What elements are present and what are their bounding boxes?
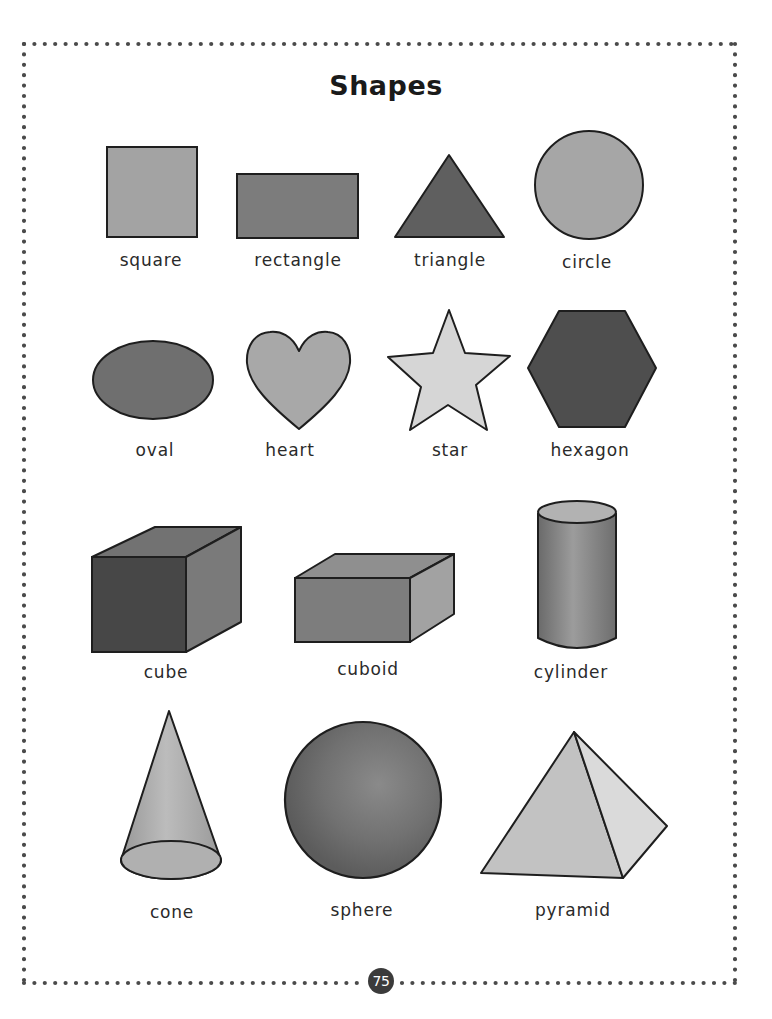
hexagon-shape [522,305,662,433]
star-shape [382,305,517,435]
page-title: Shapes [0,70,772,101]
hexagon-label: hexagon [510,440,670,460]
pyramid-label: pyramid [493,900,653,920]
cone-shape [115,705,230,885]
oval-shape [88,335,218,425]
cylinder-label: cylinder [491,662,651,682]
heart-label: heart [210,440,370,460]
worksheet-page: Shapes square rectangle triangle circle … [0,0,772,1019]
cube-label: cube [86,662,246,682]
rectangle-shape [230,165,370,245]
cone-label: cone [92,902,252,922]
sphere-label: sphere [282,900,442,920]
square-shape [100,140,210,245]
triangle-shape [390,150,510,245]
sphere-shape [280,715,445,885]
cube-shape [85,520,250,655]
pyramid-shape [475,725,675,885]
triangle-label: triangle [370,250,530,270]
square-label: square [71,250,231,270]
cylinder-shape [530,495,630,655]
circle-shape [530,124,650,246]
star-label: star [370,440,530,460]
circle-label: circle [507,252,667,272]
cuboid-label: cuboid [288,659,448,679]
page-number-badge: 75 [368,968,394,994]
rectangle-label: rectangle [218,250,378,270]
heart-shape [240,325,358,435]
cuboid-shape [288,548,463,648]
